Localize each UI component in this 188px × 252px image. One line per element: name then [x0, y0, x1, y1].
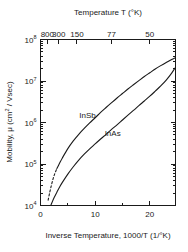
series-curve-insb	[57, 58, 175, 169]
secondary-x-tick-label: 77	[107, 30, 116, 39]
y-axis-title: Mobility, μ (cm2 / Vsec)	[4, 81, 14, 163]
series-annotations: InSbInAs	[79, 111, 120, 138]
secondary-x-axis-ticks	[47, 40, 149, 44]
x-tick-label: 0	[38, 210, 43, 219]
secondary-x-tick-label: 50	[145, 30, 154, 39]
x-axis-ticks	[41, 201, 150, 206]
secondary-x-axis-tick-labels: 8003001507750	[41, 30, 155, 39]
secondary-x-axis-title: Temperature T (°K)	[74, 8, 142, 17]
secondary-x-tick-label: 300	[52, 30, 66, 39]
series-label-insb: InSb	[79, 111, 96, 120]
y-axis-ticks	[41, 40, 46, 206]
y-axis-ticks-right	[171, 40, 176, 206]
series-label-inas: InAs	[105, 129, 121, 138]
x-axis-title: Inverse Temperature, 1000/T (1/°K)	[45, 231, 171, 240]
y-tick-label: 107	[25, 76, 37, 86]
secondary-x-tick-label: 150	[70, 30, 84, 39]
chart-svg: Temperature T (°K) 8003001507750 1041051…	[0, 0, 188, 252]
y-axis-tick-labels: 104105106107108	[25, 34, 37, 210]
y-tick-label: 106	[25, 117, 37, 127]
x-tick-label: 20	[145, 210, 154, 219]
x-axis-tick-labels: 01020	[38, 210, 155, 219]
plot-frame	[41, 40, 176, 206]
x-tick-label: 10	[91, 210, 100, 219]
y-tick-label: 105	[25, 159, 37, 169]
y-tick-label: 108	[25, 34, 37, 44]
y-tick-label: 104	[25, 200, 37, 210]
mobility-vs-inverse-temperature-chart: Temperature T (°K) 8003001507750 1041051…	[0, 0, 188, 252]
